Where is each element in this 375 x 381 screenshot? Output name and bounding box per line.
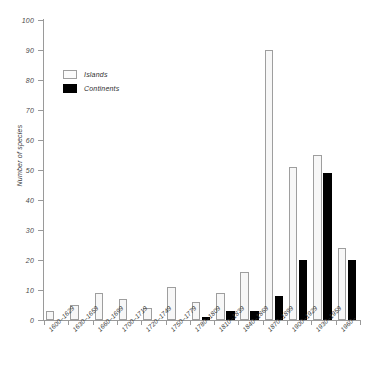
bar-islands-0 (46, 311, 55, 320)
y-tick-label: 60 (4, 137, 34, 144)
y-axis-title: Number of species (16, 101, 23, 211)
y-tick (38, 320, 43, 321)
x-tick (44, 321, 45, 325)
y-tick-label: 40 (4, 197, 34, 204)
y-tick-label: 80 (4, 77, 34, 84)
x-tick (68, 321, 69, 325)
y-tick (38, 260, 43, 261)
bar-continents-11 (323, 173, 332, 320)
x-tick (238, 321, 239, 325)
legend-swatch-continents (63, 84, 77, 93)
y-tick-label: 100 (4, 17, 34, 24)
chart-legend: Islands Continents (63, 70, 119, 98)
x-tick (214, 321, 215, 325)
x-tick (93, 321, 94, 325)
x-tick (360, 321, 361, 325)
y-tick-label: 90 (4, 47, 34, 54)
legend-item-islands: Islands (63, 70, 119, 79)
y-tick-label: 30 (4, 227, 34, 234)
bar-islands-9 (265, 50, 274, 320)
y-tick (38, 50, 43, 51)
y-tick (38, 170, 43, 171)
bar-islands-11 (313, 155, 322, 320)
x-tick (263, 321, 264, 325)
legend-item-continents: Continents (63, 84, 119, 93)
bar-continents-12 (348, 260, 357, 320)
x-tick (336, 321, 337, 325)
y-tick-label: 50 (4, 167, 34, 174)
y-tick-label: 10 (4, 287, 34, 294)
legend-swatch-islands (63, 70, 77, 79)
chart-figure: Number of species 0102030405060708090100… (0, 0, 375, 381)
x-tick (166, 321, 167, 325)
x-tick (287, 321, 288, 325)
bar-islands-5 (167, 287, 176, 320)
y-tick (38, 110, 43, 111)
y-tick-label: 0 (4, 317, 34, 324)
bar-islands-10 (289, 167, 298, 320)
y-tick-label: 20 (4, 257, 34, 264)
x-tick (311, 321, 312, 325)
y-tick (38, 230, 43, 231)
y-tick (38, 20, 43, 21)
x-tick (117, 321, 118, 325)
x-tick (190, 321, 191, 325)
x-tick (141, 321, 142, 325)
y-tick-label: 70 (4, 107, 34, 114)
y-tick (38, 200, 43, 201)
y-tick (38, 80, 43, 81)
y-tick (38, 140, 43, 141)
plot-area (44, 20, 360, 320)
legend-label-islands: Islands (84, 71, 108, 78)
legend-label-continents: Continents (84, 85, 119, 92)
y-tick (38, 290, 43, 291)
